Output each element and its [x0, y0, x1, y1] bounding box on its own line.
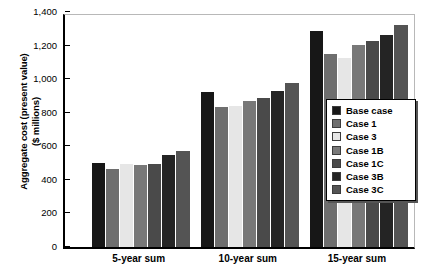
legend-item[interactable]: Case 1B [332, 144, 410, 157]
legend-swatch-icon [332, 119, 341, 128]
y-axis-tick-label: 400 [41, 174, 57, 185]
legend-item-label: Case 1B [346, 145, 384, 156]
bar[interactable] [176, 151, 190, 247]
bar[interactable] [148, 164, 162, 247]
legend-swatch-icon [332, 146, 341, 155]
bar[interactable] [162, 155, 176, 247]
y-axis-tick-label: 1,400 [33, 6, 57, 17]
legend-item[interactable]: Case 1 [332, 117, 410, 130]
legend-swatch-icon [332, 159, 341, 168]
y-axis-tick-label: 200 [41, 207, 57, 218]
y-axis-title-line1: Aggregate cost (present value) [18, 53, 29, 189]
legend-item[interactable]: Case 3C [332, 183, 410, 196]
bar[interactable] [134, 165, 148, 247]
x-axis-label: 15-year sum [297, 253, 417, 264]
y-axis-tick-label: 1,200 [33, 40, 57, 51]
bar-group [89, 15, 193, 247]
legend-swatch-icon [332, 132, 341, 141]
y-axis-title-line2: ($ millions) [29, 97, 40, 146]
bar-group [198, 15, 302, 247]
legend-item-label: Base case [346, 105, 392, 116]
bar[interactable] [243, 101, 257, 247]
legend-swatch-icon [332, 172, 341, 181]
bar[interactable] [310, 31, 324, 247]
legend-item[interactable]: Base case [332, 104, 410, 117]
legend-item[interactable]: Case 1C [332, 157, 410, 170]
bar[interactable] [271, 91, 285, 247]
bar[interactable] [120, 164, 134, 247]
bar[interactable] [285, 83, 299, 247]
legend-swatch-icon [332, 185, 341, 194]
legend-item-label: Case 3 [346, 131, 377, 142]
bar[interactable] [215, 107, 229, 247]
bar[interactable] [257, 98, 271, 247]
legend-item-label: Case 1C [346, 158, 384, 169]
y-axis-tick-label: 600 [41, 140, 57, 151]
y-axis-tick-label: 800 [41, 107, 57, 118]
bar[interactable] [229, 106, 243, 247]
x-axis-label: 5-year sum [79, 253, 199, 264]
y-axis-tick-label: 0 [52, 241, 57, 252]
legend-item[interactable]: Case 3B [332, 170, 410, 183]
y-axis-tick-label: 1,000 [33, 73, 57, 84]
bar-chart: Aggregate cost (present value) ($ millio… [0, 0, 423, 275]
legend-item-label: Case 3C [346, 184, 384, 195]
tick-mark [65, 11, 70, 12]
bar[interactable] [92, 163, 106, 247]
legend-item[interactable]: Case 3 [332, 130, 410, 143]
x-axis-label: 10-year sum [188, 253, 308, 264]
legend-item-label: Case 3B [346, 171, 384, 182]
bar[interactable] [106, 169, 120, 247]
bar[interactable] [201, 92, 215, 247]
chart-legend: Base caseCase 1Case 3Case 1BCase 1CCase … [326, 99, 416, 201]
legend-swatch-icon [332, 106, 341, 115]
legend-item-label: Case 1 [346, 118, 377, 129]
